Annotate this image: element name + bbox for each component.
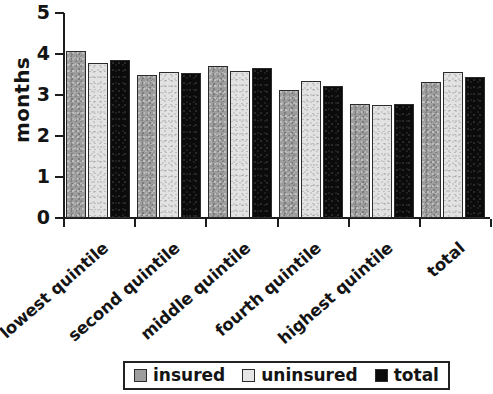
bar-insured [279, 90, 299, 218]
x-tick-0 [63, 219, 65, 227]
legend-item-total: total [375, 367, 439, 384]
y-tick-label-2: 2 [34, 126, 50, 145]
total-swatch [375, 369, 388, 382]
bar-uninsured [230, 71, 250, 218]
legend-label: uninsured [261, 367, 357, 384]
bar-group [277, 13, 348, 218]
legend-item-insured: insured [134, 367, 225, 384]
y-tick-label-3: 3 [34, 85, 50, 104]
bar-group [134, 13, 205, 218]
bar-total [181, 73, 201, 218]
x-tick-4 [348, 219, 350, 227]
x-tick-3 [277, 219, 279, 227]
bar-total [465, 77, 485, 218]
bar-uninsured [372, 105, 392, 218]
bar-chart: months 543210 lowest quintilesecond quin… [0, 0, 493, 394]
uninsured-swatch [242, 369, 255, 382]
bar-insured [208, 66, 228, 218]
bar-group [205, 13, 276, 218]
legend-item-uninsured: uninsured [242, 367, 357, 384]
plot-area [63, 13, 490, 218]
bar-total [110, 60, 130, 218]
bar-insured [421, 82, 441, 218]
chart-legend: insureduninsuredtotal [123, 361, 450, 390]
legend-label: total [394, 367, 439, 384]
x-tick-6 [490, 219, 492, 227]
bar-group [419, 13, 490, 218]
y-tick-label-1: 1 [34, 167, 50, 186]
y-axis-label: months [10, 45, 34, 155]
bar-uninsured [159, 72, 179, 218]
bar-group [63, 13, 134, 218]
bar-insured [137, 75, 157, 219]
bar-uninsured [88, 63, 108, 218]
bar-insured [66, 51, 86, 218]
bar-total [394, 104, 414, 218]
x-tick-2 [205, 219, 207, 227]
legend-label: insured [153, 367, 225, 384]
bar-total [323, 86, 343, 218]
y-tick-label-5: 5 [34, 3, 50, 22]
bar-insured [350, 104, 370, 218]
insured-swatch [134, 369, 147, 382]
bar-uninsured [301, 81, 321, 218]
x-tick-5 [419, 219, 421, 227]
bar-uninsured [443, 72, 463, 218]
x-category-label: total [423, 238, 468, 281]
x-tick-1 [134, 219, 136, 227]
bar-total [252, 68, 272, 218]
bar-group [348, 13, 419, 218]
y-tick-label-0: 0 [34, 208, 50, 227]
y-tick-label-4: 4 [34, 44, 50, 63]
